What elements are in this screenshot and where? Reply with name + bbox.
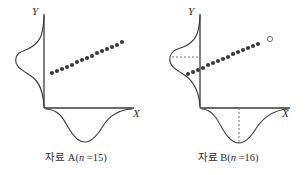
scatter-dot (256, 42, 260, 46)
scatter-dot (246, 46, 250, 50)
scatter-dot (115, 43, 119, 47)
scatter-dot (120, 40, 124, 44)
scatter-dot (231, 52, 235, 56)
scatter-dot (55, 69, 59, 73)
scatter-points-a (50, 40, 124, 75)
scatter-dot (85, 56, 89, 60)
scatter-dot (196, 68, 200, 72)
scatter-dot (110, 45, 114, 49)
caption-b: 자료 B(n =16) (152, 149, 304, 164)
scatter-dot (241, 48, 245, 52)
caption-a-prefix: 자료 A( (45, 152, 79, 163)
figure-container: Y X 자료 A(n =15) (0, 0, 305, 175)
x-axis-label-a: X (133, 108, 140, 119)
x-axis-label-b: X (282, 108, 289, 119)
caption-b-prefix: 자료 B( (198, 152, 231, 163)
scatter-dot (201, 66, 205, 70)
scatter-dot (60, 67, 64, 71)
scatter-dot (236, 50, 240, 54)
scatter-dot (65, 65, 69, 69)
y-distribution-curve-b (170, 16, 200, 106)
scatter-dot (211, 61, 215, 65)
scatter-points-b (186, 42, 260, 76)
panel-data-a: Y X 자료 A(n =15) (0, 0, 152, 175)
x-distribution-curve-a (46, 109, 132, 142)
y-axis-label-a: Y (32, 6, 38, 17)
panel-data-b: Y X 자료 B(n =16) (152, 0, 304, 175)
scatter-dot (226, 55, 230, 59)
caption-a: 자료 A(n =15) (0, 149, 152, 164)
caption-b-suffix: =16) (236, 152, 259, 163)
scatter-dot (105, 47, 109, 51)
scatter-dot (100, 49, 104, 53)
scatter-dot (95, 51, 99, 55)
scatter-dot (216, 59, 220, 63)
scatter-dot (70, 63, 74, 67)
scatter-dot (191, 70, 195, 74)
scatter-dot (90, 54, 94, 58)
scatter-dot (206, 63, 210, 67)
scatter-dot (75, 60, 79, 64)
y-distribution-curve-a (16, 16, 44, 106)
scatter-dot (50, 71, 54, 75)
scatter-dot (221, 57, 225, 61)
x-distribution-curve-b (202, 109, 288, 143)
plot-b (152, 0, 304, 148)
scatter-dot (251, 44, 255, 48)
y-axis-label-b: Y (188, 6, 194, 17)
caption-a-suffix: =15) (84, 152, 107, 163)
plot-a (0, 0, 152, 148)
scatter-dot (186, 72, 190, 76)
outlier-open-circle-b (267, 36, 272, 41)
scatter-dot (80, 58, 84, 62)
